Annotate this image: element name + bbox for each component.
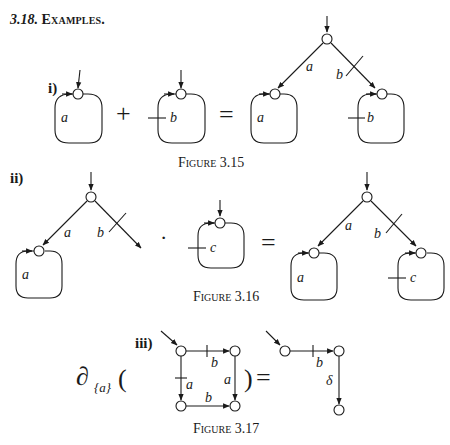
edge-label-b: b — [211, 355, 218, 370]
loop-label-a: a — [22, 267, 29, 282]
lhs-tree-ii — [16, 172, 141, 298]
operator-subscript: {a} — [94, 380, 112, 395]
edge-label-a: a — [306, 59, 313, 74]
lhs-square-graph — [161, 331, 240, 411]
edge-label-a: a — [64, 225, 71, 240]
loop-graph-c — [188, 200, 244, 268]
edge-label-b: b — [316, 355, 323, 370]
loop-graph-a — [55, 70, 102, 143]
loop-label-c: c — [410, 270, 417, 285]
edge-label-b: b — [336, 67, 343, 82]
edge-label-a: a — [224, 372, 231, 387]
rhs-tree-ii — [291, 172, 444, 300]
equals-sign: = — [256, 363, 271, 392]
edge-label-b: b — [374, 226, 381, 241]
edge-label-a: a — [186, 377, 193, 392]
rhs-tree-i — [251, 16, 404, 143]
edge-label-a: a — [345, 218, 352, 233]
loop-label-c: c — [210, 240, 217, 255]
loop-label-b: b — [367, 110, 374, 125]
equals-sign: = — [219, 100, 234, 129]
edge-label-b: b — [205, 390, 212, 405]
loop-label-a: a — [297, 270, 304, 285]
loop-label-a: a — [61, 110, 68, 125]
edge-label-b: b — [97, 225, 104, 240]
dot-operator: · — [160, 225, 167, 250]
equals-sign: = — [261, 228, 276, 257]
plus-operator: + — [116, 99, 131, 128]
edge-label-delta: δ — [326, 373, 333, 388]
loop-graph-b — [148, 70, 205, 143]
open-paren: ( — [118, 364, 127, 393]
loop-label-a: a — [257, 110, 264, 125]
encapsulation-operator: ∂ — [76, 362, 89, 391]
process-graph-diagram: a + b = a b a b — [0, 0, 450, 445]
loop-label-b: b — [170, 110, 177, 125]
close-paren: ) — [244, 364, 253, 393]
